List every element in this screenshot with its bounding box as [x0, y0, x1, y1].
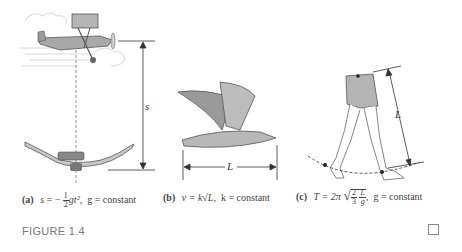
caption-c-condition: g = constant: [373, 191, 422, 202]
figure-illustrations: [0, 0, 462, 252]
caption-a-rest: gt²,: [69, 194, 82, 205]
caption-b: (b) v = k√L, k = constant: [163, 192, 270, 203]
figure-label: FIGURE 1.4: [22, 225, 85, 237]
skydiver-icon: [25, 142, 134, 171]
caption-b-tag: (b): [163, 192, 175, 203]
caption-a-tag: (a): [22, 194, 34, 205]
caption-a: (a) s = − 12gt², g = constant: [22, 192, 136, 209]
dimension-label-L-leg: L: [395, 108, 401, 120]
caption-c-radicand: 23 Lg: [351, 189, 366, 202]
dimension-label-s: s: [145, 100, 149, 112]
end-of-proof-box: [428, 224, 439, 235]
caption-a-eq: = −: [44, 194, 60, 205]
caption-c: (c) T = 2π √23 Lg, g = constant: [296, 188, 422, 206]
caption-b-condition: k = constant: [221, 192, 270, 203]
caption-a-condition: g = constant: [87, 194, 136, 205]
dimension-label-L-wingspan: L: [227, 160, 233, 172]
airplane-icon: [38, 14, 115, 63]
sqrt-sign: √: [343, 188, 351, 203]
caption-b-formula: v = k√L,: [182, 192, 216, 203]
caption-c-lhs: T = 2π: [314, 191, 341, 202]
walking-legs-icon: [308, 74, 420, 180]
caption-c-tag: (c): [296, 191, 307, 202]
seagull-icon: [178, 82, 276, 147]
